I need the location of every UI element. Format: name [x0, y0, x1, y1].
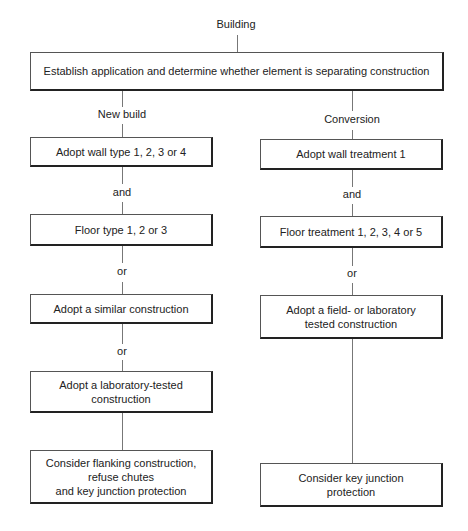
- connector-line: [352, 248, 353, 266]
- new-build-step-similar: Adopt a similar construction: [30, 294, 213, 324]
- connector-or: or: [117, 345, 127, 357]
- connector-or: or: [117, 265, 127, 277]
- connector-line: [352, 283, 353, 295]
- root-label: Building: [216, 18, 255, 30]
- top-box: Establish application and determine whet…: [30, 52, 444, 91]
- connector-line: [122, 324, 123, 344]
- connector-and: and: [113, 186, 131, 198]
- connector-and: and: [343, 188, 361, 200]
- connector-line: [122, 246, 123, 263]
- connector-or: or: [347, 267, 357, 279]
- conversion-step-field-tested: Adopt a field- or laboratory tested cons…: [260, 295, 443, 339]
- conversion-step-floor: Floor treatment 1, 2, 3, 4 or 5: [260, 216, 443, 248]
- conversion-step-junction: Consider key junction protection: [260, 463, 443, 507]
- connector-line: [352, 339, 353, 464]
- connector-line: [352, 91, 353, 111]
- connector-line: [122, 413, 123, 450]
- new-build-step-flanking: Consider flanking construction, refuse c…: [30, 450, 213, 504]
- conversion-label: Conversion: [324, 113, 380, 125]
- connector-line: [122, 167, 123, 184]
- connector-line: [122, 202, 123, 214]
- connector-line: [122, 91, 123, 107]
- connector-line: [122, 282, 123, 294]
- connector-line: [237, 35, 238, 52]
- new-build-step-floor: Floor type 1, 2 or 3: [30, 214, 213, 246]
- conversion-step-wall: Adopt wall treatment 1: [260, 139, 443, 170]
- new-build-label: New build: [98, 108, 146, 120]
- connector-line: [352, 170, 353, 187]
- new-build-step-lab-tested: Adopt a laboratory-tested construction: [30, 371, 213, 413]
- connector-line: [352, 204, 353, 216]
- new-build-step-wall: Adopt wall type 1, 2, 3 or 4: [30, 137, 213, 167]
